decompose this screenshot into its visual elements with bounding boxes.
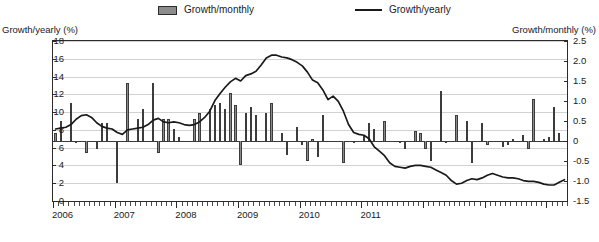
x-axis-minor-tick xyxy=(474,202,475,206)
right-axis-tick-mark xyxy=(564,41,568,42)
x-axis-minor-tick xyxy=(510,202,511,206)
x-axis-minor-tick xyxy=(228,202,229,206)
x-axis-minor-tick xyxy=(408,202,409,206)
left-axis-tick-label: 12 xyxy=(24,89,64,99)
x-axis-minor-tick xyxy=(99,202,100,206)
left-axis-tick-label: 2 xyxy=(24,178,64,188)
right-axis-tick-mark xyxy=(564,161,568,162)
left-axis-tick-mark xyxy=(52,130,56,131)
x-axis-minor-tick xyxy=(495,202,496,206)
right-axis-tick-mark xyxy=(564,61,568,62)
x-axis-minor-tick xyxy=(248,202,249,206)
left-axis-tick-label: 18 xyxy=(24,36,64,46)
x-axis-minor-tick xyxy=(120,202,121,206)
x-axis-minor-tick xyxy=(253,202,254,206)
x-axis-minor-tick xyxy=(325,202,326,206)
x-axis-minor-tick xyxy=(161,202,162,206)
x-axis-minor-tick xyxy=(562,202,563,206)
x-axis-minor-tick xyxy=(516,202,517,206)
right-axis-title: Growth/monthly (%) xyxy=(512,24,596,35)
x-axis-minor-tick xyxy=(279,202,280,206)
x-axis-minor-tick xyxy=(84,202,85,206)
x-axis-minor-tick xyxy=(310,202,311,206)
x-axis-major-tick xyxy=(423,202,424,208)
x-axis-minor-tick xyxy=(449,202,450,206)
left-axis-title: Growth/yearly (%) xyxy=(2,24,78,35)
x-axis-minor-tick xyxy=(289,202,290,206)
x-axis-minor-tick xyxy=(351,202,352,206)
line-swatch-icon xyxy=(355,9,382,11)
x-axis-minor-tick xyxy=(58,202,59,206)
line-series-growth-yearly xyxy=(53,41,567,201)
x-axis-minor-tick xyxy=(264,202,265,206)
x-axis-minor-tick xyxy=(284,202,285,206)
right-axis-tick-mark xyxy=(564,101,568,102)
x-axis-minor-tick xyxy=(110,202,111,206)
x-axis-minor-tick xyxy=(392,202,393,206)
x-axis-minor-tick xyxy=(505,202,506,206)
left-axis-tick-label: 16 xyxy=(24,54,64,64)
x-axis-major-tick xyxy=(53,202,54,208)
right-axis-tick-label: 2.5 xyxy=(573,36,599,46)
x-axis-minor-tick xyxy=(356,202,357,206)
x-axis-minor-tick xyxy=(63,202,64,206)
left-axis-tick-mark xyxy=(52,112,56,113)
right-axis-tick-label: 1.5 xyxy=(573,76,599,86)
bar-swatch-icon xyxy=(158,6,177,15)
x-axis-minor-tick xyxy=(140,202,141,206)
right-axis-tick-label: -0.5 xyxy=(573,156,599,166)
right-axis-tick-mark xyxy=(564,181,568,182)
x-axis-minor-tick xyxy=(331,202,332,206)
x-axis-minor-tick xyxy=(207,202,208,206)
x-axis-minor-tick xyxy=(274,202,275,206)
growth-chart: Growth/monthly Growth/yearly Growth/year… xyxy=(0,0,599,242)
x-axis-minor-tick xyxy=(259,202,260,206)
x-axis-minor-tick xyxy=(464,202,465,206)
x-axis-minor-tick xyxy=(305,202,306,206)
x-axis-minor-tick xyxy=(151,202,152,206)
x-axis-minor-tick xyxy=(372,202,373,206)
right-axis-tick-label: -1.0 xyxy=(573,176,599,186)
x-axis-minor-tick xyxy=(130,202,131,206)
x-axis-minor-tick xyxy=(74,202,75,206)
x-axis-minor-tick xyxy=(212,202,213,206)
yearly-growth-line xyxy=(53,41,567,201)
legend-item-growth-monthly: Growth/monthly xyxy=(158,4,254,16)
left-axis-tick-mark xyxy=(52,183,56,184)
right-axis-tick-label: 1.0 xyxy=(573,96,599,106)
x-axis-minor-tick xyxy=(433,202,434,206)
legend-item-growth-yearly: Growth/yearly xyxy=(355,4,451,16)
x-axis-minor-tick xyxy=(320,202,321,206)
x-axis-minor-tick xyxy=(428,202,429,206)
left-axis-tick-mark xyxy=(52,41,56,42)
x-axis-minor-tick xyxy=(541,202,542,206)
x-axis-minor-tick xyxy=(403,202,404,206)
x-axis-minor-tick xyxy=(135,202,136,206)
right-axis-tick-label: 2.0 xyxy=(573,56,599,66)
x-axis-minor-tick xyxy=(459,202,460,206)
left-axis-tick-mark xyxy=(52,59,56,60)
x-axis-minor-tick xyxy=(166,202,167,206)
x-axis-major-tick xyxy=(115,202,116,208)
x-axis-minor-tick xyxy=(567,202,568,206)
left-axis-tick-label: 8 xyxy=(24,125,64,135)
x-axis-minor-tick xyxy=(192,202,193,206)
x-axis-minor-tick xyxy=(526,202,527,206)
left-axis-tick-label: 6 xyxy=(24,143,64,153)
x-axis-minor-tick xyxy=(557,202,558,206)
x-axis-major-tick xyxy=(485,202,486,208)
chart-legend: Growth/monthly Growth/yearly xyxy=(0,2,599,20)
x-axis-major-tick xyxy=(176,202,177,208)
legend-label-growth-yearly: Growth/yearly xyxy=(389,4,451,16)
x-axis-minor-tick xyxy=(341,202,342,206)
x-axis-tick-label: 2007 xyxy=(114,209,135,220)
x-axis-tick-label: 2006 xyxy=(52,209,73,220)
x-axis-minor-tick xyxy=(377,202,378,206)
x-axis-minor-tick xyxy=(500,202,501,206)
x-axis-minor-tick xyxy=(315,202,316,206)
x-axis-minor-tick xyxy=(187,202,188,206)
x-axis-major-tick xyxy=(546,202,547,208)
left-axis-tick-label: 14 xyxy=(24,72,64,82)
x-axis-minor-tick xyxy=(490,202,491,206)
x-axis-minor-tick xyxy=(79,202,80,206)
